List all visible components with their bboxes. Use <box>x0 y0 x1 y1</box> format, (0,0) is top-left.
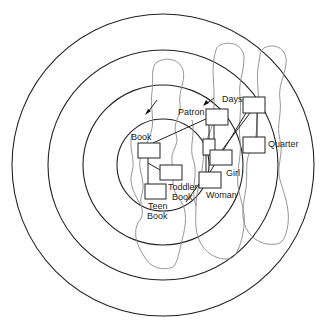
label-book: Book <box>131 132 152 142</box>
entity-box-toddler-book <box>160 165 182 180</box>
concentric-ring-diagram: Book Toddler Book Teen Book Patron Girl … <box>0 0 325 326</box>
entity-box-quarter <box>243 137 265 153</box>
label-teen-line1: Teen <box>148 201 168 211</box>
label-woman: Woman <box>206 190 237 200</box>
entity-box-girl <box>210 150 232 165</box>
label-patron: Patron <box>178 107 205 117</box>
boundary-blob-left <box>136 59 186 268</box>
entity-box-days <box>243 97 265 113</box>
entity-box-book <box>138 143 160 158</box>
label-teen-line2: Book <box>147 211 168 221</box>
entity-box-teen-book <box>145 184 166 199</box>
entity-box-patron <box>206 109 228 125</box>
label-girl: Girl <box>226 168 240 178</box>
entity-box-woman <box>199 172 221 188</box>
label-days: Days <box>222 94 243 104</box>
link-book-patron <box>153 118 208 143</box>
label-toddler-line2: Book <box>172 192 193 202</box>
label-toddler-line1: Toddler <box>168 182 198 192</box>
arrowhead-right-icon <box>203 100 209 106</box>
label-quarter: Quarter <box>268 139 299 149</box>
link-book-toddlerbook <box>148 163 160 170</box>
